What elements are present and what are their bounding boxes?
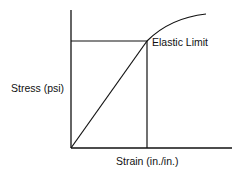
- x-axis-label: Strain (in./in.): [116, 155, 178, 167]
- elastic-limit-label: Elastic Limit: [152, 36, 208, 48]
- linear-elastic-segment: [71, 41, 147, 148]
- y-axis-label: Stress (psi): [11, 82, 64, 94]
